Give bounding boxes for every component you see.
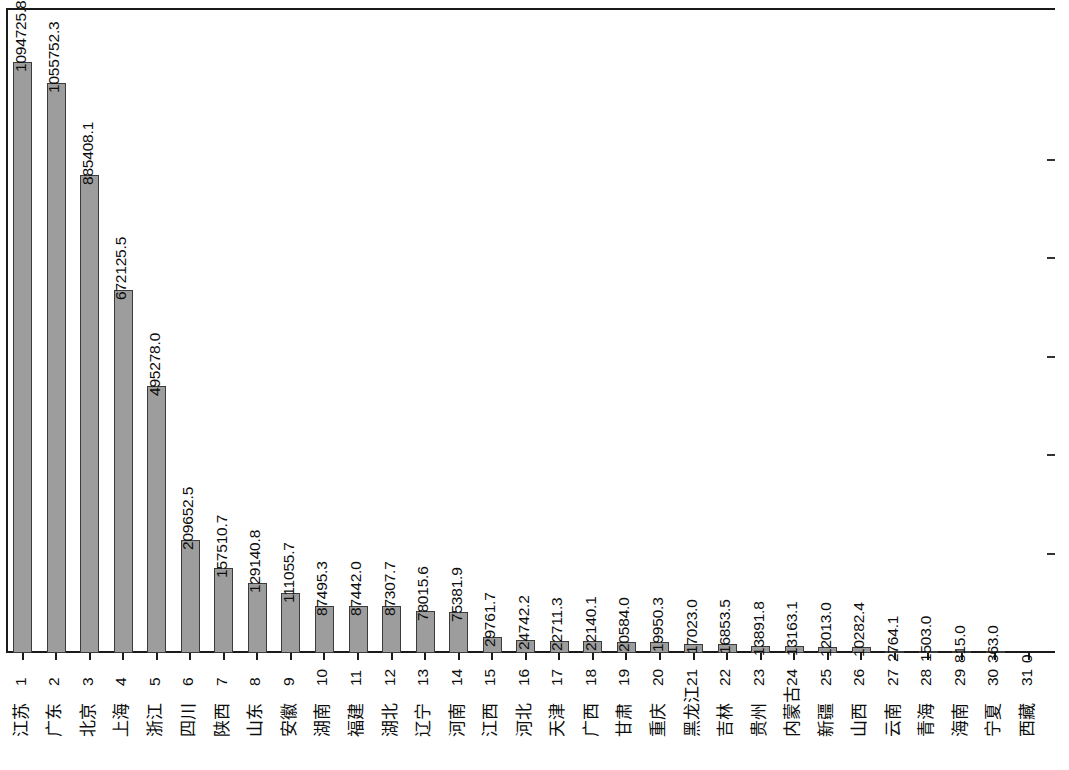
- value-axis-tick: [1047, 159, 1055, 161]
- category-index-label: 27: [884, 669, 902, 686]
- category-index-label: 21: [683, 669, 701, 686]
- bar-value-label: 17023.0: [683, 599, 701, 654]
- category-index-label: 5: [146, 677, 164, 686]
- category-name-label: 宁夏: [979, 703, 1004, 737]
- bar-value-label: 363.0: [984, 625, 1002, 663]
- bar-value-label: 75381.9: [448, 568, 466, 623]
- category-index-label: 10: [313, 669, 331, 686]
- bar-value-label: 19950.3: [649, 598, 667, 653]
- bar-value-label: 22140.1: [582, 596, 600, 651]
- category-index-label: 12: [381, 669, 399, 686]
- category-tick: [89, 653, 91, 660]
- category-tick: [391, 653, 393, 660]
- category-name-label: 上海: [107, 703, 132, 737]
- category-name-label: 山西: [845, 703, 870, 737]
- bar: [13, 62, 32, 653]
- category-tick: [55, 653, 57, 660]
- bar: [248, 583, 267, 653]
- bar-value-label: 815.0: [951, 625, 969, 663]
- bar-value-label: 2764.1: [884, 615, 902, 661]
- category-index-label: 15: [481, 669, 499, 686]
- category-name-label: 贵州: [745, 703, 770, 737]
- category-name-label: 陕西: [208, 703, 233, 737]
- category-name-label: 西藏: [1013, 703, 1038, 737]
- category-tick: [290, 653, 292, 660]
- value-axis-tick: [1047, 257, 1055, 259]
- bar-chart-figure: 1094725.81江苏1055752.32广东885408.13北京67212…: [0, 0, 1069, 770]
- bar-value-label: 209652.5: [179, 487, 197, 550]
- category-name-label: 吉林: [711, 703, 736, 737]
- category-tick: [156, 653, 158, 660]
- value-axis-tick: [1047, 356, 1055, 358]
- category-tick: [693, 653, 695, 660]
- bar-value-label: 16853.5: [716, 599, 734, 654]
- category-tick: [256, 653, 258, 660]
- bar-value-label: 10282.4: [850, 603, 868, 658]
- category-tick: [122, 653, 124, 660]
- bar-value-label: 157510.7: [213, 515, 231, 578]
- bar-value-label: 129140.8: [246, 530, 264, 593]
- category-index-label: 19: [615, 669, 633, 686]
- category-index-label: 2: [45, 677, 63, 686]
- bar-value-label: 13891.8: [750, 601, 768, 656]
- bar-value-label: 1094725.8: [12, 1, 30, 72]
- category-index-label: 18: [582, 669, 600, 686]
- category-index-label: 28: [917, 669, 935, 686]
- bar-value-label: 22711.3: [548, 597, 566, 650]
- category-tick: [357, 653, 359, 660]
- category-name-label: 四川: [174, 703, 199, 737]
- bar: [114, 290, 133, 653]
- category-index-label: 6: [179, 677, 197, 686]
- category-tick: [726, 653, 728, 660]
- category-index-label: 30: [984, 669, 1002, 686]
- category-name-label: 广东: [40, 703, 65, 737]
- category-tick: [558, 653, 560, 660]
- category-tick: [223, 653, 225, 660]
- category-tick: [458, 653, 460, 660]
- bar-value-label: 87307.7: [381, 561, 399, 616]
- category-index-label: 14: [448, 669, 466, 686]
- bars-layer: [0, 0, 1069, 653]
- category-name-label: 湖南: [308, 703, 333, 737]
- value-axis-tick: [1047, 454, 1055, 456]
- bar: [214, 568, 233, 653]
- category-tick: [491, 653, 493, 660]
- category-index-label: 1: [12, 677, 30, 686]
- category-name-label: 湖北: [376, 703, 401, 737]
- bar-value-label: 1055752.3: [45, 22, 63, 93]
- category-name-label: 云南: [879, 703, 904, 737]
- bar-value-label: 495278.0: [146, 333, 164, 396]
- category-index-label: 7: [213, 677, 231, 686]
- category-tick: [22, 653, 24, 660]
- bar-value-label: 20584.0: [615, 597, 633, 652]
- category-index-label: 24: [783, 669, 801, 686]
- category-index-label: 26: [850, 669, 868, 686]
- category-tick: [323, 653, 325, 660]
- category-name-label: 河南: [443, 703, 468, 737]
- bar-value-label: 12013.0: [817, 602, 835, 657]
- category-name-label: 青海: [912, 703, 937, 737]
- category-index-label: 31: [1018, 669, 1036, 686]
- bar-value-label: 885408.1: [79, 122, 97, 185]
- category-index-label: 23: [750, 669, 768, 686]
- category-tick: [625, 653, 627, 660]
- category-index-label: 9: [280, 677, 298, 686]
- category-name-label: 海南: [946, 703, 971, 737]
- category-index-label: 20: [649, 669, 667, 686]
- bar-value-label: 1503.0: [917, 616, 935, 662]
- category-name-label: 福建: [342, 703, 367, 737]
- value-axis-tick: [1047, 553, 1055, 555]
- category-name-label: 天津: [543, 703, 568, 737]
- category-name-label: 辽宁: [409, 703, 434, 737]
- bar: [147, 386, 166, 653]
- category-name-label: 广西: [577, 703, 602, 737]
- bar: [80, 175, 99, 653]
- category-name-label: 新疆: [812, 703, 837, 737]
- bar-value-label: 13163.1: [783, 601, 801, 656]
- category-index-label: 11: [347, 670, 365, 686]
- bar-value-label: 24742.2: [515, 595, 533, 650]
- category-index-label: 3: [79, 677, 97, 686]
- category-index-label: 16: [515, 669, 533, 686]
- category-index-label: 22: [716, 669, 734, 686]
- category-index-label: 8: [246, 677, 264, 686]
